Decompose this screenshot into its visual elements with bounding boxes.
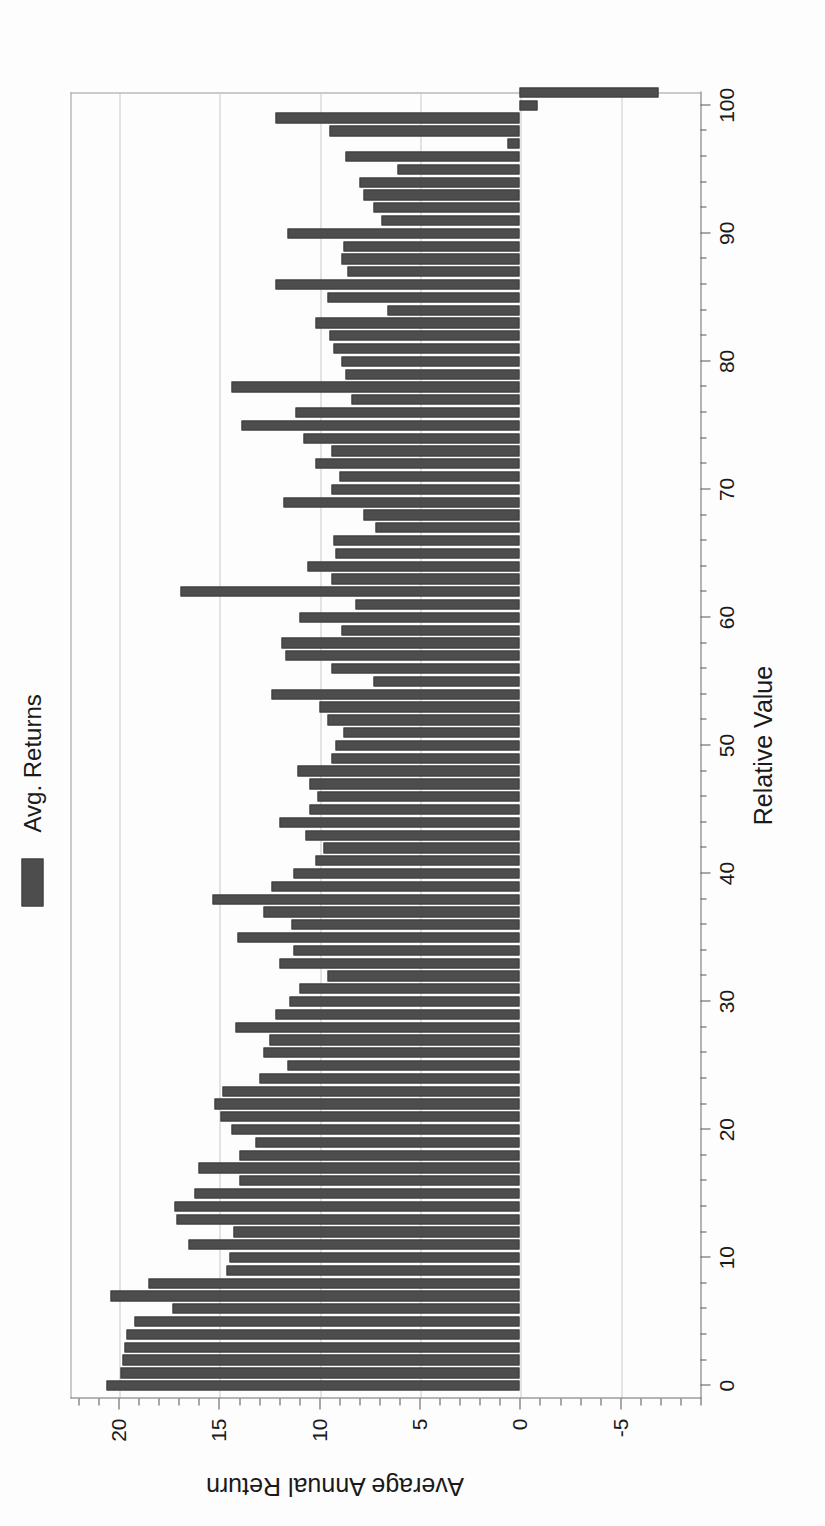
y-tick bbox=[499, 1398, 500, 1405]
bar bbox=[335, 740, 520, 750]
x-tick bbox=[700, 1154, 706, 1155]
x-tick bbox=[700, 257, 706, 258]
y-tick bbox=[680, 1398, 681, 1405]
bar bbox=[176, 1214, 519, 1224]
bar bbox=[345, 369, 520, 379]
x-tick bbox=[700, 898, 706, 899]
bar bbox=[323, 842, 520, 852]
x-tick-label: 50 bbox=[714, 733, 738, 756]
x-tick bbox=[700, 872, 710, 873]
y-tick bbox=[319, 1398, 320, 1409]
bar bbox=[329, 125, 520, 135]
y-tick-label: 10 bbox=[307, 1418, 331, 1464]
bar bbox=[287, 228, 520, 238]
x-tick bbox=[700, 1231, 706, 1232]
bar bbox=[333, 343, 520, 353]
x-tick bbox=[700, 1359, 706, 1360]
bar bbox=[148, 1278, 519, 1288]
y-tick bbox=[580, 1398, 581, 1405]
x-tick bbox=[700, 1026, 706, 1027]
x-tick bbox=[700, 283, 706, 284]
x-tick bbox=[700, 565, 706, 566]
y-tick bbox=[359, 1398, 360, 1405]
bar bbox=[174, 1201, 519, 1211]
bar bbox=[259, 1073, 520, 1083]
bar bbox=[283, 497, 520, 507]
bar bbox=[305, 830, 520, 840]
y-tick-label: 5 bbox=[407, 1418, 431, 1464]
bar bbox=[317, 791, 520, 801]
y-tick bbox=[158, 1398, 159, 1405]
x-tick bbox=[700, 590, 706, 591]
bar bbox=[287, 1060, 520, 1070]
bar bbox=[387, 305, 519, 315]
x-tick bbox=[700, 616, 710, 617]
bar bbox=[263, 1047, 520, 1057]
bar bbox=[231, 381, 520, 391]
bar bbox=[315, 458, 520, 468]
y-tick bbox=[78, 1398, 79, 1405]
x-tick bbox=[700, 488, 710, 489]
x-tick bbox=[700, 462, 706, 463]
x-tick bbox=[700, 437, 706, 438]
bar bbox=[198, 1162, 519, 1172]
bar bbox=[255, 1137, 520, 1147]
bar bbox=[341, 253, 520, 263]
x-tick bbox=[700, 386, 706, 387]
x-tick bbox=[700, 309, 706, 310]
bar bbox=[271, 881, 520, 891]
y-tick bbox=[419, 1398, 420, 1409]
x-tick bbox=[700, 1384, 710, 1385]
x-tick bbox=[700, 718, 706, 719]
y-tick bbox=[539, 1398, 540, 1405]
bar bbox=[331, 573, 520, 583]
x-tick-label: 10 bbox=[714, 1245, 738, 1268]
bar bbox=[194, 1188, 519, 1198]
x-tick bbox=[700, 770, 706, 771]
x-tick bbox=[700, 104, 710, 105]
x-tick-label: 0 bbox=[714, 1379, 738, 1391]
bar bbox=[120, 1367, 519, 1377]
y-tick bbox=[279, 1398, 280, 1405]
y-tick bbox=[660, 1398, 661, 1405]
bar bbox=[231, 1124, 520, 1134]
bar bbox=[363, 189, 519, 199]
x-tick bbox=[700, 232, 710, 233]
bar bbox=[291, 919, 520, 929]
x-tick bbox=[700, 974, 706, 975]
bar bbox=[519, 100, 537, 110]
x-tick bbox=[700, 411, 706, 412]
bar bbox=[275, 279, 520, 289]
bar bbox=[214, 1098, 519, 1108]
bar bbox=[241, 420, 520, 430]
bar bbox=[285, 650, 520, 660]
y-tick bbox=[299, 1398, 300, 1405]
x-tick bbox=[700, 821, 706, 822]
y-tick bbox=[459, 1398, 460, 1405]
bar bbox=[297, 766, 520, 776]
y-tick bbox=[640, 1398, 641, 1405]
x-tick-label: 100 bbox=[714, 87, 738, 122]
rotated-chart-canvas: Avg. Returns 0102030405060708090100 -505… bbox=[0, 0, 825, 1526]
x-tick bbox=[700, 360, 710, 361]
x-tick bbox=[700, 155, 706, 156]
x-tick bbox=[700, 795, 706, 796]
bar bbox=[220, 1111, 519, 1121]
y-tick bbox=[198, 1398, 199, 1405]
x-axis-title: Relative Value bbox=[748, 92, 777, 1398]
x-tick-label: 20 bbox=[714, 1117, 738, 1140]
bar bbox=[375, 522, 519, 532]
y-tick bbox=[138, 1398, 139, 1405]
bar bbox=[293, 868, 520, 878]
y-tick-label: 20 bbox=[106, 1418, 130, 1464]
bar bbox=[235, 1022, 520, 1032]
bar bbox=[222, 1086, 519, 1096]
bar bbox=[212, 894, 519, 904]
bar bbox=[355, 599, 520, 609]
bar bbox=[226, 1265, 519, 1275]
bar bbox=[319, 701, 520, 711]
bar bbox=[315, 855, 520, 865]
bar bbox=[507, 138, 519, 148]
y-tick bbox=[178, 1398, 179, 1405]
y-tick bbox=[239, 1398, 240, 1405]
